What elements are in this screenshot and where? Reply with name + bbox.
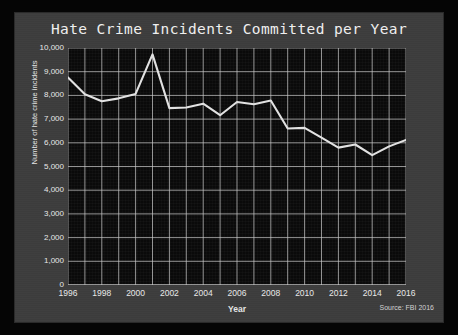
- x-axis-title: Year: [68, 304, 406, 314]
- y-axis-title: Number of hate crime incidents: [30, 38, 39, 188]
- x-axis-tick-labels: 1996199820002002200420062008201020122014…: [68, 289, 406, 303]
- y-tick-label: 1,000: [18, 257, 64, 265]
- chart-title: Hate Crime Incidents Committed per Year: [14, 21, 444, 37]
- y-tick-label: 0: [18, 281, 64, 289]
- data-line-series: [68, 48, 406, 285]
- y-axis-tick-labels: 01,0002,0003,0004,0005,0006,0007,0008,00…: [14, 48, 64, 285]
- x-tick-label: 2016: [386, 289, 426, 298]
- plot-area: [68, 48, 406, 285]
- y-tick-label: 7,000: [18, 115, 64, 123]
- y-tick-label: 6,000: [18, 139, 64, 147]
- y-tick-label: 10,000: [18, 44, 64, 52]
- image-frame: Hate Crime Incidents Committed per Year …: [0, 0, 458, 335]
- chart-panel: Hate Crime Incidents Committed per Year …: [14, 12, 444, 323]
- y-tick-label: 4,000: [18, 186, 64, 194]
- y-tick-label: 9,000: [18, 68, 64, 76]
- y-tick-label: 3,000: [18, 210, 64, 218]
- y-tick-label: 8,000: [18, 91, 64, 99]
- y-tick-label: 5,000: [18, 163, 64, 171]
- y-tick-label: 2,000: [18, 234, 64, 242]
- source-note: Source: FBI 2016: [380, 304, 434, 311]
